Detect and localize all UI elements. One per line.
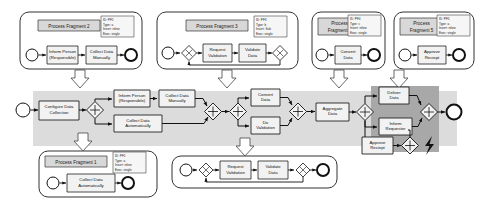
fragment-5-annotation-exec: Exec: single bbox=[439, 31, 456, 35]
fragment-2-start-event bbox=[26, 49, 38, 61]
fragment-2-annotation-insert: Insert: inline bbox=[103, 27, 120, 31]
fragment-4[interactable]: Process Fragment 4 ID: PF4 Type: c Inser… bbox=[312, 12, 385, 69]
main-task-collect-manual-label2: Manually bbox=[168, 98, 186, 103]
fragment-1-end-event bbox=[122, 177, 134, 189]
fragment-4-task-convert-label2: Data bbox=[343, 55, 353, 60]
fragment-4-annotation-exec: Exec: single bbox=[350, 31, 367, 35]
fragment-5-end-event bbox=[453, 49, 465, 61]
fragment-1-task-collect-label2: Automatically bbox=[78, 183, 104, 188]
fragment-2-annotation-type: Type: a bbox=[103, 23, 113, 27]
fragment-2-task-inform-person-label2: (Responsible) bbox=[49, 55, 76, 60]
fragment-5-title-line1: Process bbox=[413, 21, 430, 26]
main-task-deliver-label2: Data bbox=[389, 95, 399, 100]
main-task-collect-auto-label2: Automatically bbox=[125, 123, 151, 128]
fragment-1-annotation-type: Type: a bbox=[115, 159, 125, 163]
fragment-4-annotation-id: ID: PF4 bbox=[350, 17, 361, 21]
fragment-sub-task-validate-label2: Data bbox=[268, 170, 278, 175]
fragment-sub[interactable]: Request Validation Validate Data bbox=[172, 156, 337, 188]
fragment-4-title-line1: Process bbox=[331, 21, 348, 26]
fragment-1-annotation-id: ID: PF1 bbox=[115, 154, 126, 158]
fragment-1-title: Process Fragment 1 bbox=[55, 160, 97, 165]
fragment-sub-task-request-label2: Validation bbox=[226, 170, 245, 175]
fragment-5-annotation-type: Type: a bbox=[439, 22, 449, 26]
main-task-approve-label2: Reciept bbox=[370, 145, 385, 150]
fragment-2-annotation-id: ID: PF2 bbox=[103, 18, 114, 22]
fragment-1-annotation-exec: Exec: single bbox=[115, 168, 132, 172]
fragment-sub-border bbox=[172, 156, 337, 188]
fragment-2-annotation-exec: Exec: single bbox=[103, 32, 120, 36]
fragment-2-end-event bbox=[125, 49, 137, 61]
fragment-4-end-event bbox=[368, 49, 380, 61]
fragment-3-task-request-label2: Validation bbox=[208, 53, 227, 58]
fragment-3-task-validate-label2: Data bbox=[248, 53, 258, 58]
fragment-3-annotation-insert: Insert: Sub bbox=[256, 27, 271, 31]
fragment-5-title-line2: Fragment 5 bbox=[410, 28, 434, 33]
fragment-3-start-event bbox=[162, 47, 174, 59]
fragment-2-title: Process Fragment 2 bbox=[48, 24, 90, 29]
fragment-3-annotation-exec: Exec: single bbox=[256, 32, 273, 36]
fragment-3-annotation-type: Type: b bbox=[256, 23, 266, 27]
fragment-5-annotation-id: ID: PF5 bbox=[439, 17, 450, 21]
fragment-3-annotation-id: ID: PF3 bbox=[256, 18, 267, 22]
fragment-3[interactable]: Process Fragment 3 ID: PF3 Type: b Inser… bbox=[157, 12, 298, 69]
diagram-canvas: Process Fragment 2 ID: PF2 Type: a Inser… bbox=[0, 0, 486, 205]
fragment-2-task-collect-label2: Manually bbox=[93, 55, 111, 60]
fragment-sub-start-event bbox=[180, 164, 192, 176]
fragment-1[interactable]: Process Fragment 1 ID: PF1 Type: a Inser… bbox=[39, 151, 157, 197]
fragment-5-task-approve-label2: Reciept bbox=[425, 55, 440, 60]
main-task-convert-label2: Data bbox=[261, 97, 271, 102]
fragment-5-start-event bbox=[399, 49, 411, 61]
fragment-1-start-event bbox=[47, 177, 59, 189]
main-task-aggregate-label2: Data bbox=[328, 111, 338, 116]
main-task-configure-label2: Collection bbox=[50, 110, 69, 115]
main-task-validation-label2: Validation bbox=[256, 125, 275, 130]
fragment-5-annotation-insert: Insert: inline bbox=[439, 26, 456, 30]
fragment-1-annotation-insert: Insert: inline bbox=[115, 163, 132, 167]
fragment-sub-end-event bbox=[317, 164, 329, 176]
main-start-event bbox=[16, 103, 30, 117]
fragment-4-annotation-type: Type: c bbox=[350, 22, 360, 26]
fragment-5[interactable]: Process Fragment 5 ID: PF5 Type: a Inser… bbox=[394, 12, 474, 69]
main-task-inform-person-label2: (Responsible) bbox=[119, 98, 146, 103]
fragment-4-start-event bbox=[316, 49, 328, 61]
fragment-2[interactable]: Process Fragment 2 ID: PF2 Type: a Inser… bbox=[20, 12, 142, 69]
fragment-3-title: Process Fragment 3 bbox=[196, 24, 238, 29]
fragment-4-annotation-insert: Insert: inline bbox=[350, 26, 367, 30]
main-task-inform-requestor-label2: Requestor bbox=[386, 126, 406, 131]
main-end-event bbox=[447, 105, 462, 120]
